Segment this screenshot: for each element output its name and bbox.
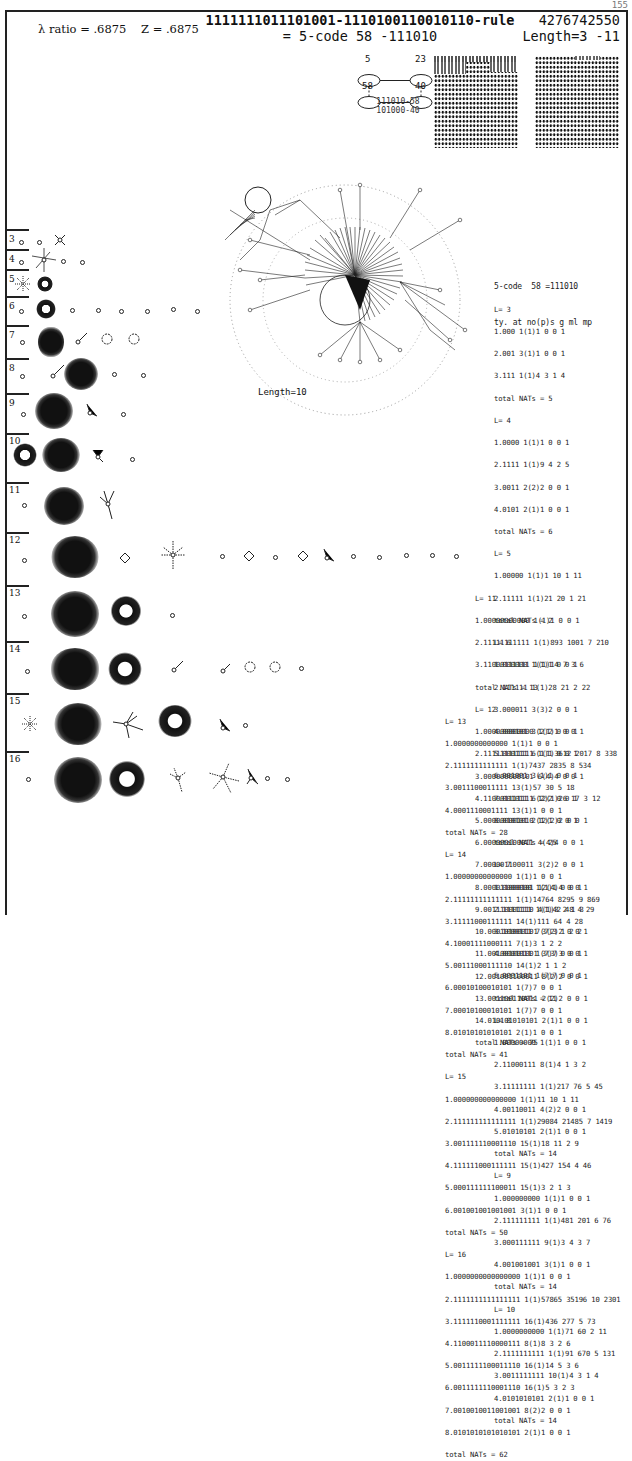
attractor-node: [22, 614, 27, 619]
attractor-basin: [54, 703, 102, 745]
attractor-node: [70, 308, 75, 313]
stats-line: 7.00010100010101 1(7)7 0 0 1: [445, 1007, 620, 1014]
stats-length: L= 4: [494, 417, 615, 424]
attractor-node: [220, 554, 225, 559]
row-label-4: 4: [9, 254, 15, 264]
attractor-tail: [49, 363, 65, 379]
stats-length: L= 5: [494, 550, 615, 557]
stats-line: 3.11000111111 1(1)14 7 3 6: [475, 661, 617, 668]
row-label-11: 11: [9, 485, 20, 495]
attractor-node: [37, 240, 42, 245]
attractor-node: [20, 374, 25, 379]
rule-number: 4276742550: [440, 12, 620, 28]
attractor-tail: [170, 660, 184, 674]
row-label-16: 16: [9, 754, 20, 764]
attractor-cycle: [243, 660, 257, 674]
stats-total: total NATs = 6: [494, 528, 615, 535]
stats-line: 2.11111111111 1(1)893 1001 7 210: [475, 639, 617, 646]
attractor-basin: [35, 393, 73, 429]
attractor-basin: [42, 438, 80, 472]
attractor-basin: [109, 760, 145, 798]
row-label-13: 13: [9, 588, 20, 598]
attractor-basin: [51, 536, 99, 578]
length-range: Length=3 -11: [440, 28, 620, 44]
lambda-ratio: λ ratio = .6875: [38, 22, 126, 36]
stats-line: 1.0000 1(1)1 0 0 1: [494, 439, 615, 446]
stats-line: 4.10001111000111 7(1)3 1 2 2: [445, 940, 620, 947]
stats-length: L= 15: [445, 1073, 620, 1080]
stats-line: 5.00111000111110 14(1)2 1 1 2: [445, 962, 620, 969]
attractor-node: [273, 555, 278, 560]
cycle-node-5: 5: [365, 54, 370, 64]
stats-line: 1.00000000000000 1(1)1 0 0 1: [445, 873, 620, 880]
stats-line: 3.0011100011111 13(1)57 30 5 18: [445, 784, 620, 791]
attractor-node: [119, 309, 124, 314]
stats-line: 8.01010101010101 2(1)1 0 0 1: [445, 1029, 620, 1036]
stats-line: 2.1111111111111 1(1)7437 2835 8 534: [445, 762, 620, 769]
attractor-diamond: [297, 550, 309, 562]
cycle-node-23: 23: [415, 54, 426, 64]
stats-line: 4.0101 2(1)1 0 0 1: [494, 506, 615, 513]
attractor-basin: [108, 652, 142, 686]
attractor-node: [145, 309, 150, 314]
attractor-node: [141, 373, 146, 378]
attractor-basin: [37, 276, 53, 292]
cycle-node-40: 40: [415, 81, 426, 91]
stats-line: 1.000000000000000 1(1)11 10 1 11: [445, 1096, 620, 1103]
stats-line: 3.11111000111111 14(1)111 64 4 28: [445, 918, 620, 925]
stats-line: 2.001 3(1)1 0 0 1: [494, 350, 615, 357]
attractor-node: [299, 666, 304, 671]
stats-line: 4.111111000111111 15(1)427 154 4 46: [445, 1162, 620, 1169]
header-ratios: λ ratio = .6875 Z = .6875: [38, 22, 199, 36]
row-separator: [7, 229, 29, 231]
attractor-node: [265, 776, 270, 781]
stats-total: total NATs = 50: [445, 1229, 620, 1236]
stats-line: 3.111 1(1)4 3 1 4: [494, 372, 615, 379]
attractor-node: [19, 309, 24, 314]
stats-line: 2.1111 1(1)9 4 2 5: [494, 461, 615, 468]
row-separator: [7, 358, 29, 360]
stats-line: 7.0010010011001001 8(2)2 0 0 1: [445, 1407, 620, 1414]
attractor-node: [404, 553, 409, 558]
attractor-diamond: [119, 552, 131, 564]
attractor-node: [80, 260, 85, 265]
row-separator: [7, 641, 29, 643]
stats-length: L= 3: [494, 306, 615, 313]
basin-of-attraction-graph: [210, 180, 480, 420]
stats-length: L= 13: [445, 718, 620, 725]
attractor-basin: [54, 757, 102, 803]
attractor-node: [61, 259, 66, 264]
attractor-node: [170, 613, 175, 618]
row-label-8: 8: [9, 363, 15, 373]
attractor-basin: [13, 443, 37, 467]
attractor-node: [195, 309, 200, 314]
attractor-node: [454, 554, 459, 559]
graph-length-label: Length=10: [258, 387, 307, 397]
stats-total: total NATs = 41: [445, 1051, 620, 1058]
stats-total: total NATs = 13: [475, 684, 617, 691]
attractor-tree: [168, 768, 188, 792]
stats-line: 5.000111111100011 15(1)3 2 1 3: [445, 1184, 620, 1191]
z-value: Z = .6875: [141, 22, 199, 36]
attractor-basin: [38, 326, 64, 358]
attractor-node: [19, 260, 24, 265]
attractor-node: [20, 340, 25, 345]
stats-total: total NATs = 28: [445, 829, 620, 836]
stats-total: total NATs = 5: [494, 395, 615, 402]
cycle-node-58: 58: [362, 81, 373, 91]
cycle-caption: 111010-58 101000-40: [358, 97, 438, 115]
pattern-1-mask: [490, 62, 518, 72]
row-separator: [7, 433, 29, 435]
stats-line: 6.0011111110001110 16(1)5 3 2 3: [445, 1384, 620, 1391]
attractor-diamond: [243, 550, 255, 562]
stats-length: L= 16: [445, 1251, 620, 1258]
attractor-tree: [32, 248, 56, 272]
cycle-caption-line: 111010-58: [358, 97, 438, 106]
attractor-tree: [217, 718, 231, 732]
stats-length: L= 11: [475, 595, 617, 602]
attractor-basin: [157, 705, 193, 737]
attractor-node: [430, 553, 435, 558]
stats-line: 1.00000 1(1)1 10 1 11: [494, 572, 615, 579]
row-separator: [7, 296, 29, 298]
stats-line: 8.0101010101010101 2(1)1 0 0 1: [445, 1429, 620, 1436]
